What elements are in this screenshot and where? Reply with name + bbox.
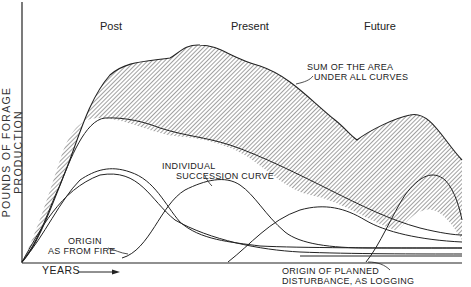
sum-leader-arrow [296, 76, 313, 84]
sum-annotation-line2: UNDER ALL CURVES [314, 72, 408, 82]
individual-annotation-line2: SUCCESSION CURVE [176, 171, 274, 181]
years-arrow-icon [112, 270, 120, 275]
fire-annotation-line2: AS FROM FIRE [48, 246, 116, 256]
individual-annotation-line1: INDIVIDUAL [162, 161, 216, 171]
x-axis-label: YEARS [42, 264, 80, 276]
era-label-present: Present [231, 20, 269, 32]
logging-annotation-line2: DISTURBANCE, AS LOGGING [282, 276, 414, 286]
y-axis-label: POUNDS OF FORAGE PRODUCTION [0, 62, 24, 242]
sum-annotation-line1: SUM OF THE AREA [307, 62, 393, 72]
fire-annotation-line1: ORIGIN [68, 236, 102, 246]
era-label-past: Post [100, 20, 122, 32]
era-label-future: Future [364, 20, 396, 32]
forage-succession-diagram: Post Present Future POUNDS OF FORAGE PRO… [0, 0, 471, 287]
logging-annotation-line1: ORIGIN OF PLANNED [282, 266, 379, 276]
